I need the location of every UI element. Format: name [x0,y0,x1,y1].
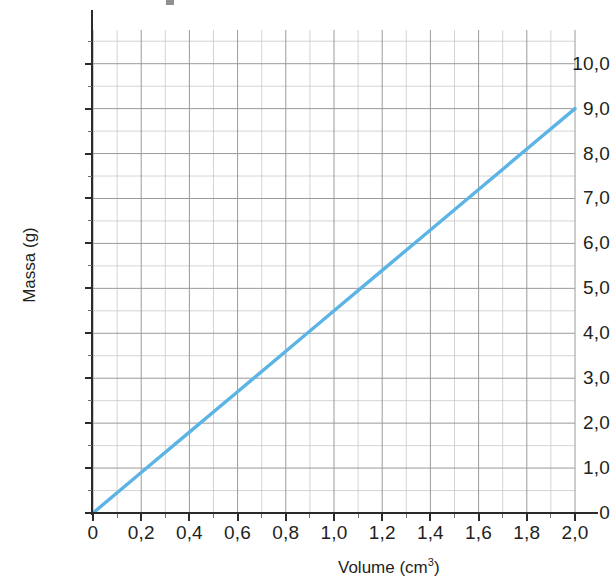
y-axis-minor-tick [88,490,92,491]
y-axis-tick-label: 3,0 [534,368,610,387]
y-axis-tick [85,512,92,514]
y-axis-tick-label: 5,0 [534,278,610,297]
x-axis-tick [526,514,528,521]
y-axis-tick [85,242,92,244]
x-axis-minor-tick [117,514,118,518]
x-axis-tick-label: 2,0 [540,523,610,542]
x-axis-title: Volume (cm3) [338,558,440,578]
x-axis-minor-tick [213,514,214,518]
y-axis-tick-label: 10,0 [534,54,610,73]
x-axis-tick [429,514,431,521]
y-axis-minor-tick [88,220,92,221]
x-axis-line [91,512,598,514]
y-axis-tick-label: 0 [534,503,610,522]
x-axis-tick [237,514,239,521]
plot-area [93,30,575,513]
x-axis-tick [285,514,287,521]
x-axis-tick [92,514,94,521]
x-axis-tick [381,514,383,521]
y-axis-tick-label: 6,0 [534,233,610,252]
y-axis-minor-tick [88,176,92,177]
y-axis-tick [85,153,92,155]
y-axis-tick [85,377,92,379]
x-axis-tick [333,514,335,521]
x-axis-minor-tick [165,514,166,518]
y-axis-tick [85,287,92,289]
y-axis-tick-label: 4,0 [534,323,610,342]
x-axis-minor-tick [358,514,359,518]
y-axis-tick-label: 7,0 [534,188,610,207]
x-axis-minor-tick [502,514,503,518]
data-series-line [93,30,575,513]
y-axis-tick-label: 2,0 [534,413,610,432]
x-axis-tick [574,514,576,521]
x-axis-title-close: ) [434,558,440,577]
x-axis-title-text: Volume (cm [338,558,428,577]
y-axis-tick [85,108,92,110]
y-axis-tick [85,422,92,424]
y-axis-minor-tick [88,400,92,401]
x-axis-minor-tick [406,514,407,518]
y-axis-minor-tick [88,41,92,42]
x-axis-minor-tick [550,514,551,518]
x-axis-tick [478,514,480,521]
y-axis-title: Massa (g) [20,205,40,325]
cropped-caption-fragment [166,0,174,5]
x-axis-minor-tick [261,514,262,518]
y-axis-tick [85,467,92,469]
y-axis-minor-tick [88,86,92,87]
y-axis-minor-tick [88,265,92,266]
y-axis-tick-label: 8,0 [534,144,610,163]
y-axis-tick [85,63,92,65]
chart-container: 01,02,03,04,05,06,07,08,09,010,000,20,40… [0,0,610,585]
y-axis-minor-tick [88,131,92,132]
y-axis-minor-tick [88,355,92,356]
x-axis-tick [140,514,142,521]
y-axis-tick [85,332,92,334]
x-axis-minor-tick [309,514,310,518]
y-axis-tick-label: 1,0 [534,458,610,477]
y-axis-minor-tick [88,445,92,446]
x-axis-tick [188,514,190,521]
x-axis-minor-tick [454,514,455,518]
y-axis-minor-tick [88,310,92,311]
y-axis-tick-label: 9,0 [534,99,610,118]
y-axis-tick [85,197,92,199]
